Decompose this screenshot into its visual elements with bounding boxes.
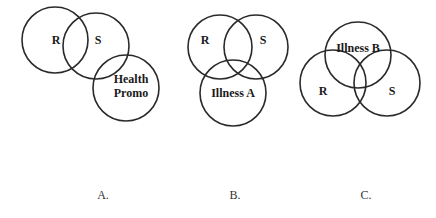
diagram-svg: R S Health Promo A. R S Illness A B. Ill… — [0, 0, 436, 218]
circle-r — [300, 50, 366, 116]
label-illness-b: Illness B — [336, 41, 380, 55]
venn-diagrams-figure: R S Health Promo A. R S Illness A B. Ill… — [0, 0, 436, 218]
diagram-b: R S Illness A B. — [188, 15, 288, 202]
diagram-a: R S Health Promo A. — [22, 7, 159, 202]
circle-s — [354, 50, 420, 116]
label-s: S — [95, 33, 102, 47]
label-r: R — [319, 84, 328, 98]
caption-a: A. — [97, 188, 109, 202]
label-health: Health — [114, 72, 149, 86]
circle-illness-b — [325, 22, 391, 88]
label-r: R — [52, 33, 61, 47]
label-illness-a: Illness A — [211, 86, 255, 100]
label-promo: Promo — [114, 86, 148, 100]
circle-r — [188, 15, 252, 79]
caption-c: C. — [360, 188, 371, 202]
label-r: R — [201, 33, 210, 47]
diagram-c: Illness B R S C. — [300, 22, 420, 202]
label-s: S — [389, 84, 396, 98]
caption-b: B. — [229, 188, 240, 202]
label-s: S — [260, 33, 267, 47]
